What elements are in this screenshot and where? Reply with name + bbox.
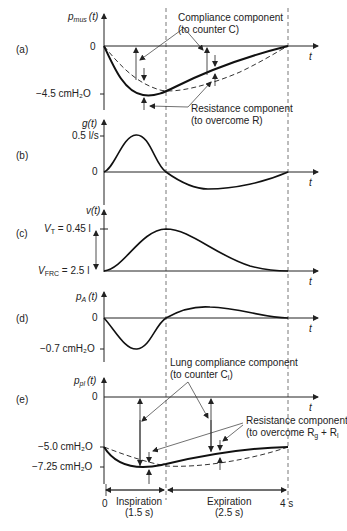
panel-a-pmus: (a) pmus(t) 0 −4.5 cmH₂O t Compliance co…	[16, 11, 318, 126]
svg-text:t: t	[309, 276, 313, 287]
svg-text:pmus(t): pmus(t)	[67, 11, 98, 23]
panel-c-volume: (c) v(t) VT = 0.45 l VFRC = 2.5 l t	[16, 205, 318, 287]
svg-text:−5.0 cmH₂O: −5.0 cmH₂O	[38, 441, 93, 452]
respiratory-waveform-diagram: (a) pmus(t) 0 −4.5 cmH₂O t Compliance co…	[0, 0, 347, 531]
svg-text:0: 0	[90, 41, 96, 52]
svg-text:0: 0	[102, 498, 108, 509]
svg-text:v(t): v(t)	[86, 205, 100, 216]
annotation-compliance-a: Compliance component	[178, 12, 283, 23]
inspiration-label: Inspiration	[116, 496, 162, 507]
svg-text:(d): (d)	[16, 313, 28, 324]
svg-text:(c): (c)	[16, 228, 28, 239]
svg-text:−0.7 cmH₂O: −0.7 cmH₂O	[40, 343, 95, 354]
svg-text:0: 0	[92, 312, 98, 323]
svg-text:g(t): g(t)	[82, 118, 97, 129]
panel-b-flow: (b) g(t) 0.5 l/s 0 t	[16, 118, 318, 205]
svg-text:(b): (b)	[16, 150, 28, 161]
annotation-resistance-e: Resistance component	[246, 415, 347, 426]
time-phase-axis: 0 4 s Inspiration (1.5 s) Expiration (2.…	[102, 484, 293, 518]
svg-text:0: 0	[92, 391, 98, 402]
svg-text:pA(t): pA(t)	[75, 291, 98, 303]
svg-text:0: 0	[92, 166, 98, 177]
svg-text:t: t	[309, 402, 313, 413]
svg-text:4 s: 4 s	[280, 498, 293, 509]
panel-label-a: (a)	[16, 44, 28, 55]
svg-text:(1.5 s): (1.5 s)	[125, 507, 153, 518]
svg-text:−4.5 cmH₂O: −4.5 cmH₂O	[36, 88, 91, 99]
svg-text:(e): (e)	[16, 394, 28, 405]
svg-text:(to overcome Rg + Rl: (to overcome Rg + Rl	[246, 427, 339, 440]
svg-text:(to counter C): (to counter C)	[178, 24, 239, 35]
svg-text:t: t	[309, 177, 313, 188]
svg-text:0.5 l/s: 0.5 l/s	[72, 130, 99, 141]
panel-e-pleural-pressure: (e) ppl(t) 0 −5.0 cmH₂O −7.25 cmH₂O t Lu…	[16, 357, 347, 484]
annotation-resistance-a: Resistance component	[191, 103, 293, 114]
svg-text:VFRC = 2.5 l: VFRC = 2.5 l	[38, 265, 89, 277]
svg-text:VT = 0.45 l: VT = 0.45 l	[44, 223, 91, 235]
svg-text:t: t	[309, 323, 313, 334]
panel-d-alveolar-pressure: (d) pA(t) 0 −0.7 cmH₂O t	[16, 291, 318, 362]
annotation-lung-compliance-e: Lung compliance component	[170, 357, 298, 368]
expiration-label: Expiration	[207, 496, 251, 507]
svg-text:(2.5 s): (2.5 s)	[215, 507, 243, 518]
svg-text:(to counter Cl): (to counter Cl)	[170, 369, 233, 381]
svg-text:−7.25 cmH₂O: −7.25 cmH₂O	[32, 461, 93, 472]
svg-text:(to overcome R): (to overcome R)	[191, 115, 263, 126]
svg-text:ppl(t): ppl(t)	[73, 375, 96, 388]
svg-text:t: t	[309, 51, 313, 62]
